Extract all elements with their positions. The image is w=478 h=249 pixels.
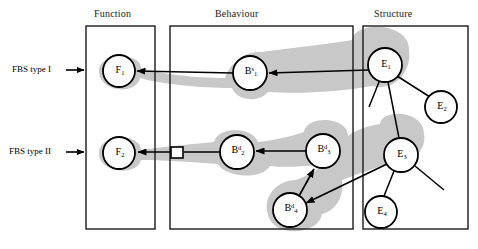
node-label-e1: E1 (375, 59, 397, 71)
node-label-f1: F1 (109, 65, 131, 77)
panel-title-function: Function (94, 8, 131, 19)
panel-title-behaviour: Behaviour (215, 8, 258, 19)
row-label-fbs-type-ii: FBS type II (9, 146, 51, 156)
node-label-b3d: Bd3 (312, 144, 336, 156)
link-e3-to-e4 (384, 171, 394, 196)
row-label-fbs-type-i: FBS type I (12, 64, 51, 74)
node-label-b1s: Bs1 (239, 66, 263, 78)
node-label-e3: E3 (391, 149, 413, 161)
side-label-arrows (66, 70, 84, 152)
fbs-diagram: Function Behaviour Structure FBS type I … (0, 0, 478, 249)
node-label-e4: E4 (371, 206, 393, 218)
diagram-canvas (0, 0, 478, 249)
link-e1-to-e2 (397, 76, 430, 97)
comparison-square[interactable] (171, 147, 183, 158)
link-e3-free (415, 166, 444, 190)
panel-title-structure: Structure (374, 8, 412, 19)
node-label-b2d: Bd2 (226, 145, 250, 157)
node-label-b4d: Bd4 (279, 203, 303, 215)
node-label-f2: F2 (109, 147, 131, 159)
node-label-e2: E2 (431, 101, 453, 113)
